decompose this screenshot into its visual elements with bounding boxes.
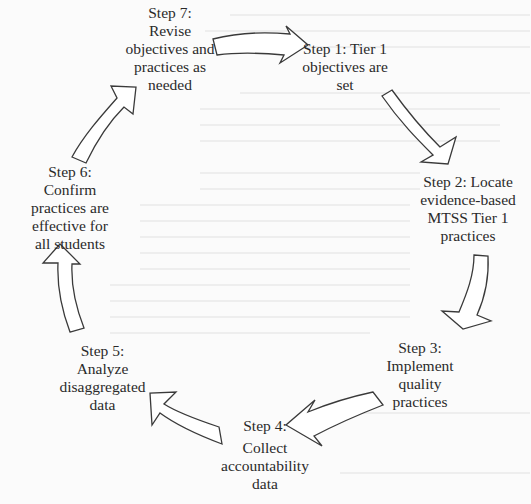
arrow-step2-to-step3 <box>442 255 491 329</box>
step-line: Implement <box>375 357 465 375</box>
step-heading: Step 1: Tier 1 <box>300 40 390 58</box>
step-line: practices are <box>20 199 120 217</box>
step-heading: Step 5: <box>50 342 155 360</box>
step-line: Analyze <box>50 360 155 378</box>
step-heading: Step 4: <box>215 417 315 435</box>
step-6-label: Step 6: Confirm practices are effective … <box>20 163 120 253</box>
step-line: practices <box>408 227 528 245</box>
step-line: Collect <box>215 439 315 457</box>
arrow-step1-to-step2 <box>382 90 456 164</box>
step-line: accountability <box>215 457 315 475</box>
step-line: Confirm <box>20 181 120 199</box>
step-line: disaggregated <box>50 378 155 396</box>
step-heading: Step 6: <box>20 163 120 181</box>
arrow-step5-to-step6 <box>43 244 84 332</box>
step-2-label: Step 2: Locate evidence-based MTSS Tier … <box>408 173 528 245</box>
arrow-step6-to-step7 <box>72 86 136 163</box>
step-line: data <box>50 396 155 414</box>
step-3-label: Step 3: Implement quality practices <box>375 339 465 411</box>
step-line: all students <box>20 235 120 253</box>
step-line: objectives are <box>300 58 390 76</box>
step-5-label: Step 5: Analyze disaggregated data <box>50 342 155 414</box>
step-line: data <box>215 475 315 493</box>
step-1-label: Step 1: Tier 1 objectives are set <box>300 40 390 94</box>
step-4-label: Step 4: Collect accountability data <box>215 417 315 493</box>
step-heading: Step 3: <box>375 339 465 357</box>
step-line: practices <box>375 393 465 411</box>
step-line: objectives and <box>120 40 220 58</box>
arrow-step7-to-step1 <box>213 26 308 63</box>
step-heading: Step 2: Locate <box>408 173 528 191</box>
step-line: needed <box>120 76 220 94</box>
step-line: set <box>300 76 390 94</box>
step-line: MTSS Tier 1 <box>408 209 528 227</box>
arrow-step4-to-step5 <box>150 392 222 444</box>
step-heading: Step 7: <box>120 4 220 22</box>
step-line: practices as <box>120 58 220 76</box>
step-line: quality <box>375 375 465 393</box>
step-line: effective for <box>20 217 120 235</box>
step-line: evidence-based <box>408 191 528 209</box>
step-line: Revise <box>120 22 220 40</box>
step-7-label: Step 7: Revise objectives and practices … <box>120 4 220 94</box>
